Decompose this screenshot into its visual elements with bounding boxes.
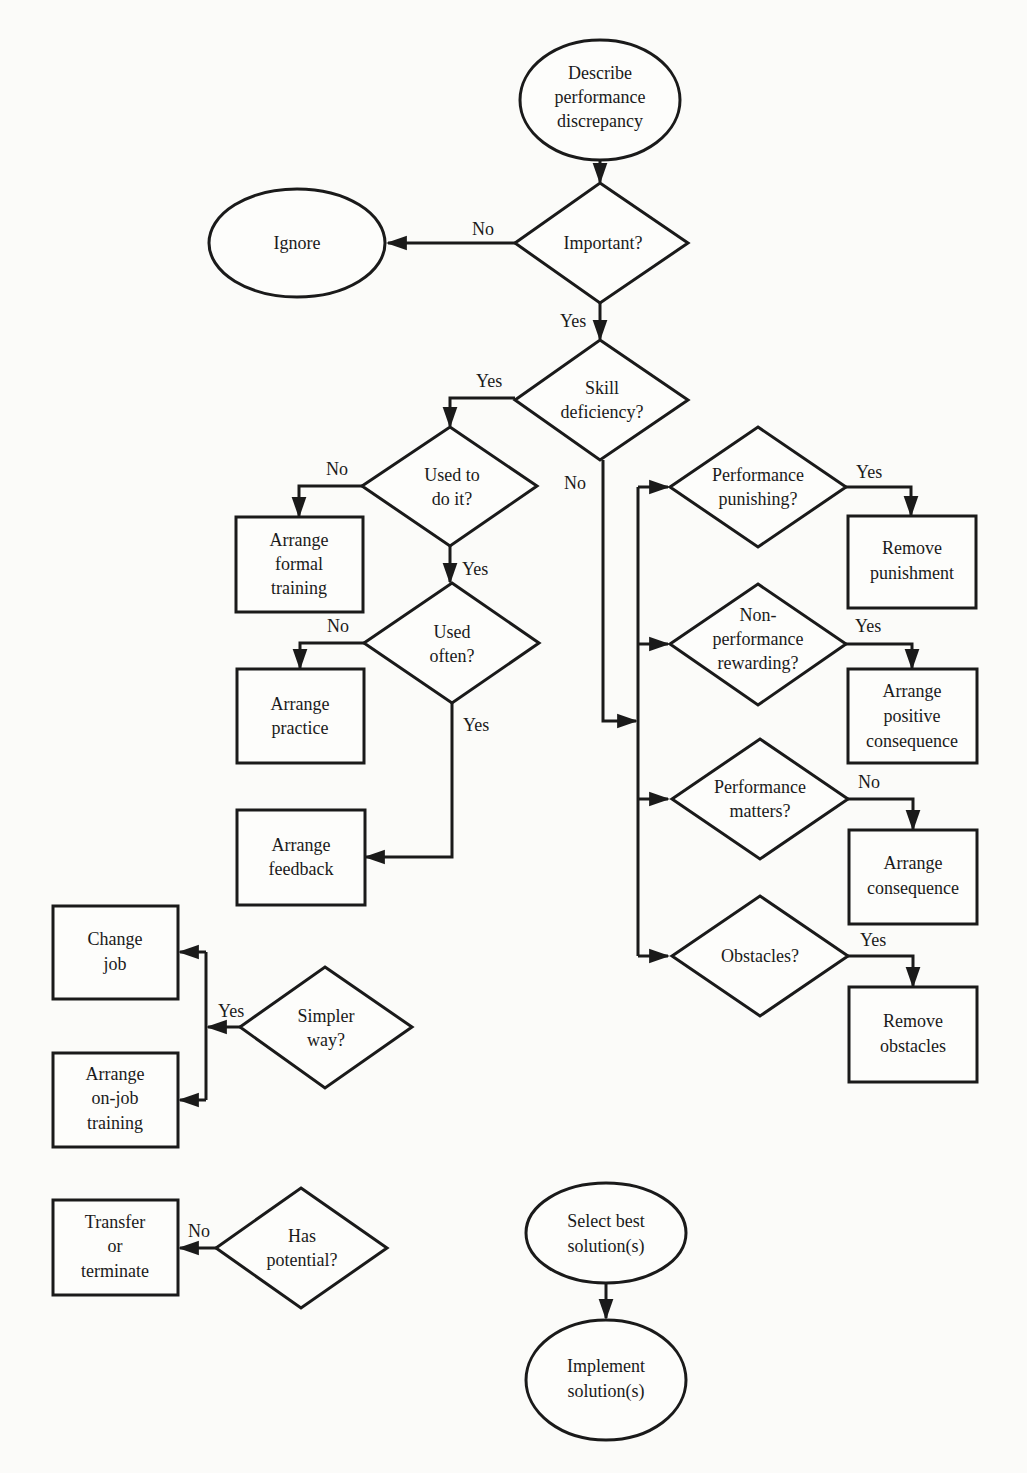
node-text: Ignore — [274, 233, 321, 253]
node-text: Remove — [883, 1011, 943, 1031]
node-text: Obstacles? — [721, 946, 799, 966]
node-text: Skill — [585, 378, 619, 398]
node-text: rewarding? — [718, 653, 799, 673]
node-text: do it? — [432, 489, 473, 509]
edge-matters-consequence — [848, 799, 913, 829]
node-text: Arrange — [884, 853, 943, 873]
node-text: consequence — [867, 878, 959, 898]
performance-analysis-flowchart: No Yes Yes No No Yes No Yes Yes Yes No Y… — [0, 0, 1027, 1473]
action-arrange-practice: Arrange practice — [237, 669, 364, 763]
node-text: practice — [272, 718, 329, 738]
node-text: Change — [88, 929, 143, 949]
node-text: training — [271, 578, 327, 598]
terminator-shape — [526, 1320, 686, 1440]
node-text: solution(s) — [567, 1236, 644, 1257]
decision-has-potential: Has potential? — [216, 1188, 387, 1308]
label-simpler-yes: Yes — [218, 1001, 244, 1021]
decision-obstacles: Obstacles? — [672, 896, 848, 1016]
node-text: Arrange — [271, 694, 330, 714]
node-text: often? — [430, 646, 475, 666]
decision-used-often: Used often? — [364, 583, 539, 703]
decision-shape — [364, 583, 539, 703]
node-text: performance — [713, 629, 804, 649]
decision-performance-matters: Performance matters? — [672, 739, 848, 859]
label-usedoften-yes: Yes — [463, 715, 489, 735]
node-text: Arrange — [86, 1064, 145, 1084]
edge-punishing-remove — [846, 487, 911, 515]
node-text: way? — [307, 1030, 345, 1050]
edge-usedoften-feedback — [366, 703, 452, 857]
action-remove-punishment: Remove punishment — [848, 516, 976, 608]
node-select-best-solutions: Select best solution(s) — [526, 1183, 686, 1283]
node-text: Transfer — [85, 1212, 145, 1232]
decision-used-to-do-it: Used to do it? — [362, 427, 537, 546]
node-text: Implement — [567, 1356, 645, 1376]
node-text: punishment — [870, 563, 954, 583]
node-text: or — [108, 1236, 123, 1256]
decision-shape — [362, 427, 537, 546]
decision-performance-punishing: Performance punishing? — [670, 427, 846, 547]
decision-shape — [515, 340, 688, 460]
label-important-no: No — [472, 219, 494, 239]
decision-simpler-way: Simpler way? — [240, 967, 412, 1088]
edge-usedto-formal — [299, 486, 362, 516]
node-implement-solutions: Implement solution(s) — [526, 1320, 686, 1440]
decision-skill-deficiency: Skill deficiency? — [515, 340, 688, 460]
terminator-shape — [526, 1183, 686, 1283]
node-text: punishing? — [719, 489, 798, 509]
label-obstacles-yes: Yes — [860, 930, 886, 950]
action-arrange-on-job-training: Arrange on-job training — [53, 1053, 178, 1147]
decision-shape — [672, 739, 848, 859]
label-rewarding-yes: Yes — [855, 616, 881, 636]
node-text: Non- — [740, 605, 777, 625]
process-shape — [849, 830, 977, 924]
label-usedto-no: No — [326, 459, 348, 479]
node-text: Simpler — [298, 1006, 355, 1026]
label-punishing-yes: Yes — [856, 462, 882, 482]
node-text: Used to — [424, 465, 480, 485]
process-shape — [849, 987, 977, 1082]
label-matters-no: No — [858, 772, 880, 792]
label-potential-no: No — [188, 1221, 210, 1241]
node-text: Select best — [567, 1211, 644, 1231]
edge-skill-right-column — [603, 460, 636, 721]
process-shape — [237, 669, 364, 763]
action-arrange-feedback: Arrange feedback — [237, 810, 365, 905]
node-text: Used — [434, 622, 471, 642]
decision-shape — [216, 1188, 387, 1308]
node-text: Describe — [568, 63, 632, 83]
action-transfer-or-terminate: Transfer or terminate — [53, 1200, 178, 1295]
node-text: Arrange — [883, 681, 942, 701]
node-text: discrepancy — [557, 111, 643, 131]
node-text: consequence — [866, 731, 958, 751]
decision-shape — [240, 967, 412, 1088]
decision-nonperformance-rewarding: Non- performance rewarding? — [670, 584, 846, 705]
node-text: Performance — [714, 777, 806, 797]
node-ignore: Ignore — [209, 189, 385, 297]
node-text: job — [102, 954, 126, 974]
node-text: Performance — [712, 465, 804, 485]
node-text: Important? — [564, 233, 643, 253]
process-shape — [848, 516, 976, 608]
label-usedto-yes: Yes — [462, 559, 488, 579]
label-usedoften-no: No — [327, 616, 349, 636]
process-shape — [53, 906, 178, 999]
action-arrange-formal-training: Arrange formal training — [236, 517, 363, 612]
decision-shape — [670, 427, 846, 547]
node-text: Arrange — [270, 530, 329, 550]
action-arrange-positive-consequence: Arrange positive consequence — [848, 669, 977, 763]
node-text: matters? — [730, 801, 791, 821]
node-text: on-job — [92, 1088, 139, 1108]
action-remove-obstacles: Remove obstacles — [849, 987, 977, 1082]
node-text: feedback — [269, 859, 334, 879]
node-text: Arrange — [272, 835, 331, 855]
node-text: Remove — [882, 538, 942, 558]
node-text: solution(s) — [567, 1381, 644, 1402]
action-arrange-consequence: Arrange consequence — [849, 830, 977, 924]
node-text: positive — [884, 706, 941, 726]
action-change-job: Change job — [53, 906, 178, 999]
edge-skill-usedto — [450, 398, 515, 426]
node-text: deficiency? — [561, 402, 644, 422]
node-text: performance — [555, 87, 646, 107]
label-skill-no: No — [564, 473, 586, 493]
